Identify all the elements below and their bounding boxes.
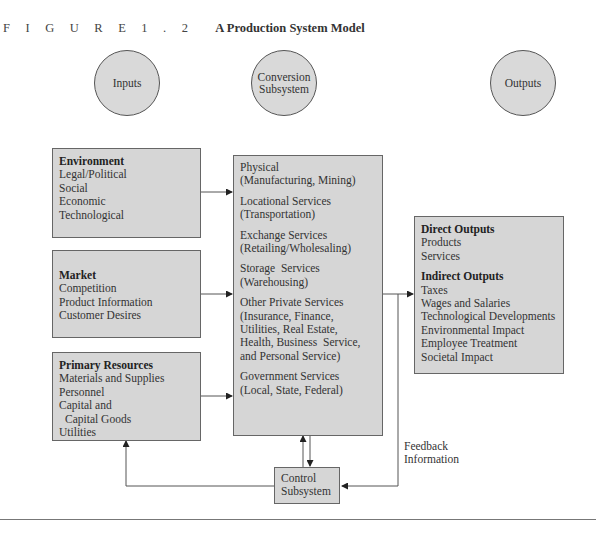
conversion-group-detail: (Warehousing) bbox=[240, 276, 376, 289]
indirect-output-item: Employee Treatment bbox=[421, 337, 557, 350]
environment-box: Environment Legal/Political Social Econo… bbox=[52, 148, 201, 238]
conversion-group-detail: (Transportation) bbox=[240, 208, 376, 221]
environment-item: Economic bbox=[59, 195, 194, 208]
primary-resources-item: Personnel bbox=[59, 386, 194, 399]
primary-resources-item: Capital Goods bbox=[59, 413, 194, 426]
direct-outputs-heading: Direct Outputs bbox=[421, 223, 557, 236]
conversion-group-detail: (Retailing/Wholesaling) bbox=[240, 242, 376, 255]
conversion-group-name: Exchange Services bbox=[240, 229, 376, 242]
feedback-label-line: Information bbox=[404, 453, 459, 466]
conversion-group-name: Storage Services bbox=[240, 262, 376, 275]
indirect-output-item: Societal Impact bbox=[421, 351, 557, 364]
conversion-box: Physical (Manufacturing, Mining) Locatio… bbox=[233, 155, 383, 436]
conversion-group-detail: and Personal Service) bbox=[240, 350, 376, 363]
environment-item: Legal/Political bbox=[59, 168, 194, 181]
conversion-group-name: Other Private Services bbox=[240, 296, 376, 309]
primary-resources-box: Primary Resources Materials and Supplies… bbox=[52, 352, 201, 441]
indirect-outputs-heading: Indirect Outputs bbox=[421, 270, 557, 283]
direct-output-item: Products bbox=[421, 236, 557, 249]
control-label-line: Control bbox=[281, 472, 333, 485]
indirect-output-item: Taxes bbox=[421, 284, 557, 297]
conversion-group-name: Government Services bbox=[240, 370, 376, 383]
environment-item: Technological bbox=[59, 209, 194, 222]
market-heading: Market bbox=[59, 269, 194, 282]
feedback-information-label: Feedback Information bbox=[404, 440, 459, 467]
primary-resources-heading: Primary Resources bbox=[59, 359, 194, 372]
conversion-group-name: Physical bbox=[240, 161, 376, 174]
market-box: Market Competition Product Information C… bbox=[52, 250, 201, 338]
primary-resources-item: Capital and bbox=[59, 399, 194, 412]
direct-output-item: Services bbox=[421, 250, 557, 263]
primary-resources-item: Materials and Supplies bbox=[59, 372, 194, 385]
conversion-group-detail: (Local, State, Federal) bbox=[240, 384, 376, 397]
conversion-group-detail: (Insurance, Finance, bbox=[240, 310, 376, 323]
primary-resources-item: Utilities bbox=[59, 426, 194, 439]
market-item: Customer Desires bbox=[59, 309, 194, 322]
outputs-box: Direct Outputs Products Services Indirec… bbox=[414, 216, 564, 374]
environment-heading: Environment bbox=[59, 155, 194, 168]
indirect-output-item: Wages and Salaries bbox=[421, 297, 557, 310]
environment-item: Social bbox=[59, 182, 194, 195]
control-label-line: Subsystem bbox=[281, 485, 333, 498]
indirect-output-item: Technological Developments bbox=[421, 310, 557, 323]
arrow-control-to-resources bbox=[126, 441, 274, 486]
conversion-group-detail: (Manufacturing, Mining) bbox=[240, 174, 376, 187]
feedback-label-line: Feedback bbox=[404, 440, 459, 453]
bottom-rule bbox=[0, 519, 596, 520]
market-item: Product Information bbox=[59, 296, 194, 309]
indirect-output-item: Environmental Impact bbox=[421, 324, 557, 337]
conversion-group-detail: Utilities, Real Estate, bbox=[240, 323, 376, 336]
control-subsystem-box: Control Subsystem bbox=[274, 467, 340, 504]
market-item: Competition bbox=[59, 282, 194, 295]
conversion-group-name: Locational Services bbox=[240, 195, 376, 208]
conversion-group-detail: Health, Business Service, bbox=[240, 336, 376, 349]
